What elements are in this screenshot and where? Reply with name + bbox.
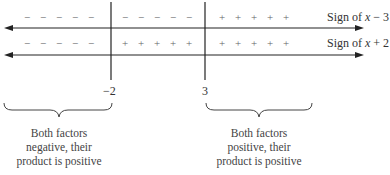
sign: −: [40, 11, 46, 23]
caption-line: Both factors: [200, 126, 318, 140]
sign: +: [283, 37, 289, 49]
sign: +: [219, 37, 225, 49]
label-prefix: Sign of: [327, 10, 365, 24]
row-label-x-plus-2: Sign of x + 2: [327, 36, 389, 51]
number-line-row-1: [4, 25, 364, 31]
sign: +: [138, 37, 144, 49]
curly-brace-icon: [206, 103, 312, 117]
sign: −: [72, 11, 78, 23]
sign: −: [56, 11, 62, 23]
row-label-x-minus-3: Sign of x − 3: [327, 10, 389, 25]
critical-point-3: 3: [202, 84, 208, 99]
caption-line: product is positive: [0, 154, 118, 168]
sign: +: [122, 37, 128, 49]
sign: +: [219, 11, 225, 23]
sign: +: [267, 11, 273, 23]
sign: +: [170, 37, 176, 49]
sign: −: [56, 37, 62, 49]
sign: +: [251, 11, 257, 23]
caption-line: Both factors: [0, 126, 118, 140]
caption-right: Both factors positive, their product is …: [200, 126, 318, 168]
sign: +: [186, 37, 192, 49]
number-line-row-2: [4, 52, 364, 58]
caption-line: product is positive: [200, 154, 318, 168]
sign: −: [122, 11, 128, 23]
caption-line: negative, their: [0, 140, 118, 154]
sign: +: [267, 37, 273, 49]
sign: −: [138, 11, 144, 23]
sign: +: [283, 11, 289, 23]
sign: −: [72, 37, 78, 49]
sign: +: [235, 37, 241, 49]
caption-left: Both factors negative, their product is …: [0, 126, 118, 168]
sign: −: [88, 37, 94, 49]
sign: +: [235, 11, 241, 23]
arrow-left-icon: [4, 25, 13, 31]
sign: −: [40, 37, 46, 49]
label-suffix: − 3: [370, 10, 389, 24]
sign: −: [88, 11, 94, 23]
sign: +: [251, 37, 257, 49]
curly-brace-icon: [4, 103, 112, 117]
sign: −: [186, 11, 192, 23]
label-suffix: + 2: [370, 36, 389, 50]
sign: −: [170, 11, 176, 23]
critical-point-neg2: −2: [103, 84, 116, 99]
sign: −: [24, 11, 30, 23]
arrow-right-icon: [355, 25, 364, 31]
label-prefix: Sign of: [327, 36, 365, 50]
sign: −: [24, 37, 30, 49]
sign: +: [154, 37, 160, 49]
arrow-right-icon: [355, 52, 364, 58]
caption-line: positive, their: [200, 140, 318, 154]
sign: −: [154, 11, 160, 23]
arrow-left-icon: [4, 52, 13, 58]
